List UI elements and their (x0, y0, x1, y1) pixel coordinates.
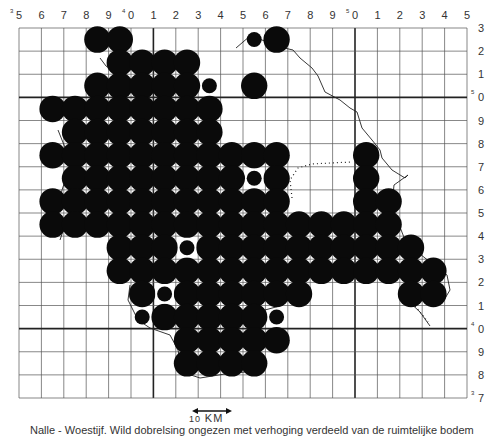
occurrence-dot (420, 281, 446, 307)
occurrence-dot-small (202, 78, 217, 93)
top-axis-label: 3 (195, 10, 201, 21)
occurrence-dot (398, 234, 424, 260)
occurrence-dot (263, 327, 289, 353)
top-axis-label: 3 (419, 10, 425, 21)
top-axis-label: 6 (262, 10, 268, 21)
right-axis-label: 9 (478, 347, 484, 358)
occurrence-dot (263, 188, 289, 214)
occurrence-dot-small (135, 310, 150, 325)
right-axis-label: 2 (478, 277, 484, 288)
occurrence-dot-small (247, 32, 262, 47)
occurrence-dot (353, 142, 379, 168)
right-axis-label: 7 (478, 393, 484, 404)
occurrence-dot-small (269, 310, 284, 325)
right-axis-label: 2 (478, 46, 484, 57)
top-axis-label-prefix: 5 (346, 8, 349, 14)
right-axis-label: 9 (478, 116, 484, 127)
occurrence-dot (375, 211, 401, 237)
scale-unit: KM (205, 412, 224, 424)
right-axis-label-prefix: 3 (471, 390, 474, 396)
top-axis-label: 1 (374, 10, 380, 21)
occurrence-dot (151, 234, 177, 260)
top-axis-label: 4 (442, 10, 448, 21)
right-axis-label: 5 (478, 208, 484, 219)
occurrence-dot (241, 73, 267, 99)
top-axis-label: 8 (83, 10, 89, 21)
top-axis-label: 5 (240, 10, 246, 21)
right-axis-label: 3 (478, 23, 484, 34)
right-axis-label: 4 (478, 231, 484, 242)
figure-caption: Nalle - Woestijf. Wild dobrelsing ongeze… (30, 424, 474, 436)
top-axis-label: 9 (106, 10, 112, 21)
occurrence-dot (286, 281, 312, 307)
top-axis-label: 0 (128, 10, 134, 21)
occurrence-dot (241, 350, 267, 376)
right-axis-label: 0 (478, 324, 484, 335)
scale-bar-label: 10 KM (189, 412, 223, 424)
occurrence-dot (174, 49, 200, 75)
top-axis-label: 7 (61, 10, 67, 21)
occurrence-dot (129, 281, 155, 307)
top-axis-label: 4 (218, 10, 224, 21)
right-axis-label: 1 (478, 301, 484, 312)
right-axis-label: 7 (478, 162, 484, 173)
occurrence-dot (107, 26, 133, 52)
top-axis-label: 9 (330, 10, 336, 21)
right-axis-label-prefix: 4 (471, 321, 474, 327)
occurrence-dot-small (157, 286, 172, 301)
right-axis-label: 1 (478, 69, 484, 80)
occurrence-dot (375, 188, 401, 214)
occurrence-dot (353, 165, 379, 191)
top-axis-label: 6 (38, 10, 44, 21)
right-axis-label: 3 (478, 254, 484, 265)
top-axis-label: 0 (352, 10, 358, 21)
right-axis-label: 6 (478, 185, 484, 196)
occurrence-dot (263, 26, 289, 52)
top-axis-label: 8 (307, 10, 313, 21)
top-axis-label-prefix: 3 (10, 8, 13, 14)
occurrence-dot (196, 119, 222, 145)
scale-value: 10 (189, 414, 201, 424)
top-axis-label: 7 (285, 10, 291, 21)
right-axis-label: 0 (478, 92, 484, 103)
dotted-boundary (290, 162, 352, 198)
right-axis-label: 8 (478, 370, 484, 381)
occurrence-dot (174, 73, 200, 99)
top-axis-label-prefix: 4 (122, 8, 125, 14)
right-axis-label: 8 (478, 139, 484, 150)
occurrence-dot (219, 165, 245, 191)
right-axis-label-prefix: 5 (471, 89, 474, 95)
occurrence-dot-small (180, 240, 195, 255)
occurrence-dot (241, 304, 267, 330)
top-axis-label: 5 (16, 10, 22, 21)
occurrence-dot (420, 258, 446, 284)
top-axis-label: 5 (464, 10, 470, 21)
top-axis-label: 1 (150, 10, 156, 21)
occurrence-dot (196, 96, 222, 122)
top-axis-label: 2 (397, 10, 403, 21)
top-axis-label: 2 (173, 10, 179, 21)
occurrence-dot (263, 165, 289, 191)
occurrence-dot (263, 142, 289, 168)
occurrence-dot-small (247, 171, 262, 186)
